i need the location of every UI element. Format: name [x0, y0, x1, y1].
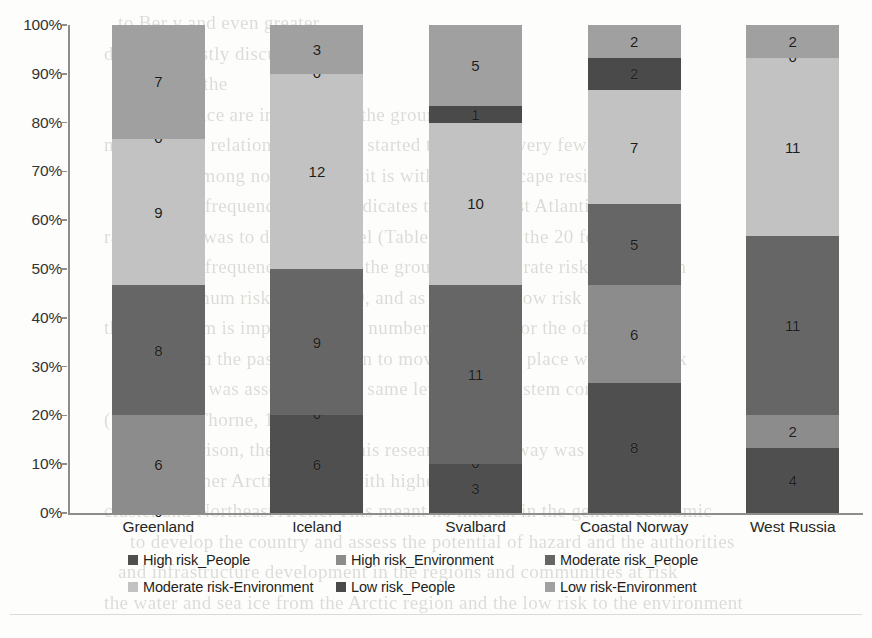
bar-segment-value-label: 2 — [630, 34, 638, 49]
legend-item-label: High risk_Environment — [351, 552, 494, 568]
bar-segment-value-label: 6 — [313, 457, 321, 472]
x-axis-line — [68, 513, 863, 515]
legend-item-label: Moderate risk-Environment — [143, 579, 313, 595]
x-axis-category-labels: GreenlandIcelandSvalbardCoastal NorwayWe… — [69, 518, 862, 546]
bar-segment[interactable]: 12 — [270, 74, 363, 269]
legend-item-label: Moderate risk_People — [560, 552, 698, 568]
bar-segment-value-label: 1 — [471, 107, 479, 122]
y-axis-tick-label: 60% — [4, 211, 62, 229]
x-axis-category-label: Greenland — [79, 518, 238, 536]
x-axis-category-label: Svalbard — [396, 518, 555, 536]
y-axis-tick-label: 70% — [4, 162, 62, 180]
y-axis-tick-mark — [62, 73, 67, 75]
bar-segment-value-label: 6 — [154, 457, 162, 472]
y-axis-tick-mark — [62, 171, 67, 173]
y-axis-tick-mark — [62, 24, 67, 26]
bar-stack: 30111015 — [429, 25, 522, 513]
y-axis-tick-label: 20% — [4, 406, 62, 424]
bar-segment[interactable]: 11 — [429, 285, 522, 464]
bar-segment[interactable]: 6 — [270, 415, 363, 513]
plot-area: 06890760912033011101586572242111102 — [69, 25, 862, 513]
bar-segment[interactable]: 11 — [746, 58, 839, 237]
legend-item[interactable]: High risk_Environment — [336, 552, 494, 568]
bar-segment[interactable]: 7 — [112, 25, 205, 139]
bar-segment[interactable]: 8 — [588, 383, 681, 513]
chart-legend: High risk_PeopleHigh risk_EnvironmentMod… — [0, 552, 872, 612]
bar-segment[interactable]: 6 — [588, 285, 681, 383]
y-axis-tick-mark — [62, 268, 67, 270]
y-axis-line — [68, 25, 70, 514]
bar-group[interactable]: 865722 — [588, 25, 681, 513]
bar-segment[interactable]: 3 — [270, 25, 363, 74]
bar-stack: 865722 — [588, 25, 681, 513]
bar-segment[interactable]: 2 — [746, 25, 839, 58]
bar-segment-value-label: 9 — [313, 335, 321, 350]
bar-segment[interactable]: 2 — [588, 58, 681, 91]
bar-segment-value-label: 11 — [468, 367, 484, 382]
bar-segment[interactable]: 11 — [746, 236, 839, 415]
legend-color-swatch — [128, 582, 138, 592]
bar-segment-value-label: 7 — [154, 74, 162, 89]
y-axis-tick-mark — [62, 463, 67, 465]
y-axis-tick-label: 80% — [4, 114, 62, 132]
y-axis-tick-label: 40% — [4, 309, 62, 327]
x-axis-category-label: West Russia — [713, 518, 872, 536]
bar-segment-value-label: 5 — [471, 58, 479, 73]
bar-group[interactable]: 42111102 — [746, 25, 839, 513]
y-axis-tick-label: 50% — [4, 260, 62, 278]
legend-item[interactable]: High risk_People — [128, 552, 250, 568]
y-axis-tick-mark — [62, 366, 67, 368]
bar-segment[interactable]: 9 — [112, 139, 205, 285]
bar-segment[interactable]: 1 — [429, 106, 522, 122]
legend-color-swatch — [128, 555, 138, 565]
x-axis-category-label: Coastal Norway — [555, 518, 714, 536]
legend-item-label: Low risk-Environment — [560, 579, 696, 595]
bar-group[interactable]: 6091203 — [270, 25, 363, 513]
bar-segment[interactable]: 9 — [270, 269, 363, 415]
y-axis-tick-label: 100% — [4, 16, 62, 34]
bar-group[interactable]: 068907 — [112, 25, 205, 513]
bar-segment[interactable]: 5 — [429, 25, 522, 106]
legend-item[interactable]: Moderate risk_People — [545, 552, 698, 568]
bar-segment[interactable]: 10 — [429, 123, 522, 286]
legend-item[interactable]: Low risk-Environment — [545, 579, 696, 595]
bar-segment[interactable]: 7 — [588, 90, 681, 204]
bar-segment-value-label: 9 — [154, 205, 162, 220]
bar-segment-value-label: 3 — [471, 481, 479, 496]
y-axis-tick-mark — [62, 219, 67, 221]
y-axis-tick-label: 10% — [4, 455, 62, 473]
y-axis-tick-labels: 100%90%80%70%60%50%40%30%20%10%0% — [0, 0, 62, 538]
bar-segment[interactable]: 2 — [746, 415, 839, 448]
legend-item-label: High risk_People — [143, 552, 250, 568]
y-axis-tick-mark — [62, 317, 67, 319]
bar-segment[interactable]: 5 — [588, 204, 681, 285]
bar-segment-value-label: 2 — [789, 424, 797, 439]
bar-segment-value-label: 4 — [789, 473, 797, 488]
legend-color-swatch — [336, 582, 346, 592]
bar-segment-value-label: 6 — [630, 327, 638, 342]
stacked-bar-chart: 100%90%80%70%60%50%40%30%20%10%0% 068907… — [0, 0, 872, 638]
bar-segment-value-label: 3 — [313, 42, 321, 57]
legend-color-swatch — [336, 555, 346, 565]
bar-group[interactable]: 30111015 — [429, 25, 522, 513]
y-axis-tick-label: 0% — [4, 504, 62, 522]
bar-segment[interactable]: 8 — [112, 285, 205, 415]
legend-color-swatch — [545, 582, 555, 592]
legend-color-swatch — [545, 555, 555, 565]
legend-item[interactable]: Low risk_People — [336, 579, 455, 595]
y-axis-tick-label: 30% — [4, 358, 62, 376]
legend-item[interactable]: Moderate risk-Environment — [128, 579, 313, 595]
x-axis-category-label: Iceland — [238, 518, 397, 536]
bar-segment[interactable]: 4 — [746, 448, 839, 513]
y-axis-tick-mark — [62, 512, 67, 514]
bar-stack: 068907 — [112, 25, 205, 513]
bar-segment[interactable]: 3 — [429, 464, 522, 513]
bar-segment[interactable]: 6 — [112, 415, 205, 513]
bar-segment-value-label: 12 — [309, 164, 326, 179]
legend-item-label: Low risk_People — [351, 579, 455, 595]
bar-segment-value-label: 8 — [630, 440, 638, 455]
y-axis-tick-mark — [62, 415, 67, 417]
bar-segment[interactable]: 2 — [588, 25, 681, 58]
y-axis-tick-mark — [62, 122, 67, 124]
y-axis-tick-label: 90% — [4, 65, 62, 83]
